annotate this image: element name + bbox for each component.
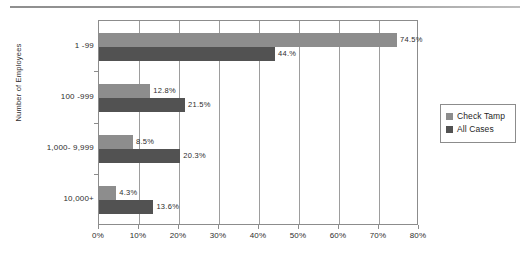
legend-label: Check Tamp — [457, 111, 505, 121]
x-axis-tick-label: 30% — [201, 231, 235, 240]
x-axis-tick-label: 20% — [161, 231, 195, 240]
x-axis-tick-label: 70% — [361, 231, 395, 240]
legend-item[interactable]: Check Tamp — [446, 111, 511, 121]
y-axis-category-label: 100 -999 — [4, 92, 94, 101]
bar-group: 12.8%21.5% — [99, 84, 417, 112]
bar-value-label: 8.5% — [133, 135, 154, 149]
bar-row: 44.% — [99, 47, 417, 61]
bar-value-label: 21.5% — [185, 98, 211, 112]
y-axis-category-label: 1 -99 — [4, 41, 94, 50]
chart-legend: Check Tamp All Cases — [440, 104, 516, 143]
bar-value-label: 74.5% — [397, 33, 423, 47]
bar[interactable] — [99, 47, 275, 61]
bar-row: 20.3% — [99, 149, 417, 163]
x-axis-tick — [218, 225, 219, 229]
x-axis-tick-label: 60% — [321, 231, 355, 240]
plot-area: 74.5%44.%12.8%21.5%8.5%20.3%4.3%13.6% — [98, 20, 418, 225]
x-axis-tick-label: 50% — [281, 231, 315, 240]
bar[interactable] — [99, 33, 397, 47]
bar-value-label: 12.8% — [150, 84, 176, 98]
bar[interactable] — [99, 84, 150, 98]
x-axis-tick — [138, 225, 139, 229]
legend-swatch-check-tamp — [446, 113, 453, 120]
bar-row: 12.8% — [99, 84, 417, 98]
bar-row: 74.5% — [99, 33, 417, 47]
bar-value-label: 20.3% — [180, 149, 206, 163]
x-axis-tick — [378, 225, 379, 229]
bar[interactable] — [99, 135, 133, 149]
bar[interactable] — [99, 149, 180, 163]
x-axis-tick — [98, 225, 99, 229]
bar[interactable] — [99, 98, 185, 112]
y-axis-tick — [94, 71, 98, 72]
bar-chart-figure: Number of Employees 74.5%44.%12.8%21.5%8… — [0, 0, 528, 261]
bars-layer: 74.5%44.%12.8%21.5%8.5%20.3%4.3%13.6% — [99, 21, 417, 224]
y-axis-category-label: 1,000- 9,999 — [4, 143, 94, 152]
legend-item[interactable]: All Cases — [446, 124, 511, 134]
x-axis-tick — [418, 225, 419, 229]
y-axis-category-label: 10,000+ — [4, 194, 94, 203]
bar-row: 21.5% — [99, 98, 417, 112]
bar-row: 4.3% — [99, 186, 417, 200]
bar-group: 8.5%20.3% — [99, 135, 417, 163]
bar[interactable] — [99, 200, 153, 214]
bar-row: 13.6% — [99, 200, 417, 214]
y-axis-title: Number of Employees — [14, 13, 23, 153]
x-axis-tick — [298, 225, 299, 229]
x-axis-tick-label: 40% — [241, 231, 275, 240]
legend-label: All Cases — [457, 124, 494, 134]
bar-value-label: 4.3% — [116, 186, 137, 200]
x-axis-tick — [338, 225, 339, 229]
bar-value-label: 13.6% — [153, 200, 179, 214]
y-axis-tick — [94, 123, 98, 124]
legend-swatch-all-cases — [446, 126, 453, 133]
bar-group: 74.5%44.% — [99, 33, 417, 61]
x-axis-tick — [258, 225, 259, 229]
x-axis-tick — [178, 225, 179, 229]
bar[interactable] — [99, 186, 116, 200]
x-axis-tick-label: 10% — [121, 231, 155, 240]
x-axis-tick-label: 80% — [401, 231, 435, 240]
bar-value-label: 44.% — [275, 47, 296, 61]
bar-group: 4.3%13.6% — [99, 186, 417, 214]
x-axis-tick-label: 0% — [81, 231, 115, 240]
bar-row: 8.5% — [99, 135, 417, 149]
y-axis-tick — [94, 174, 98, 175]
